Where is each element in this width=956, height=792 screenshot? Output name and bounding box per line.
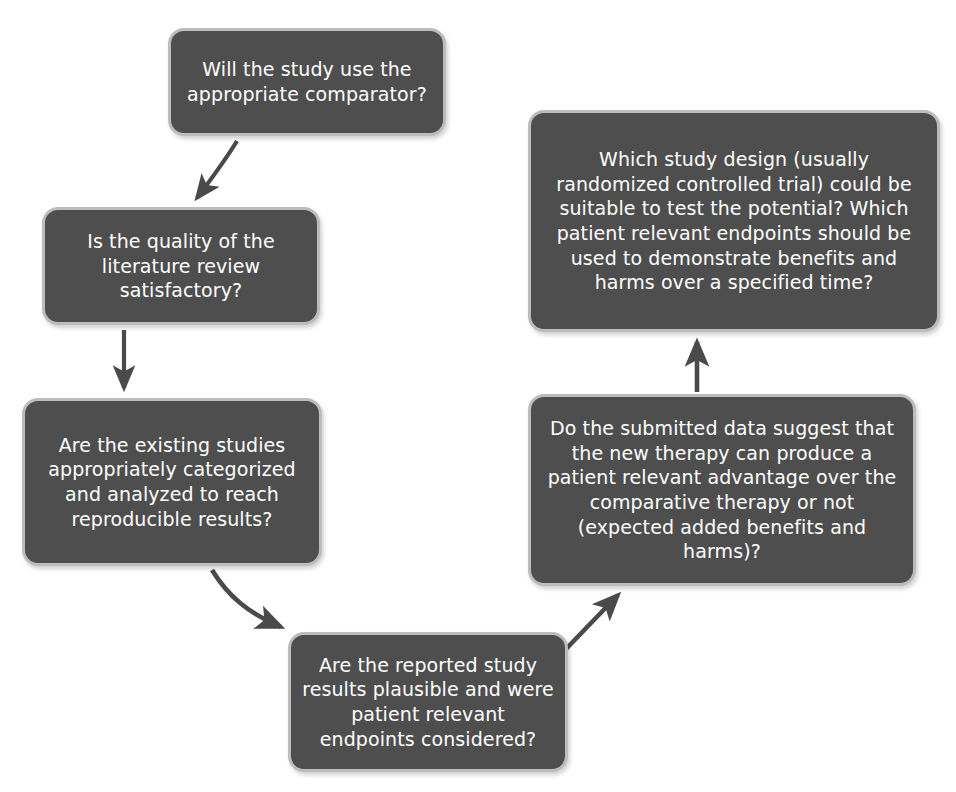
node-study-design-label: Which study design (usually randomized c…: [531, 143, 937, 299]
arrow-existing-to-reported: [212, 570, 281, 627]
arrow-reported-to-submitted: [565, 595, 618, 650]
node-comparator-label: Will the study use the appropriate compa…: [171, 53, 443, 110]
arrow-comparator-to-literature: [197, 141, 237, 198]
node-comparator[interactable]: Will the study use the appropriate compa…: [168, 28, 446, 136]
node-submitted-data[interactable]: Do the submitted data suggest that the n…: [528, 394, 916, 586]
node-submitted-data-label: Do the submitted data suggest that the n…: [531, 412, 913, 568]
node-existing-studies-label: Are the existing studies appropriately c…: [25, 429, 319, 536]
flowchart-canvas: Will the study use the appropriate compa…: [0, 0, 956, 792]
node-literature-review[interactable]: Is the quality of the literature review …: [42, 207, 320, 325]
node-reported-results[interactable]: Are the reported study results plausible…: [288, 632, 568, 772]
node-existing-studies[interactable]: Are the existing studies appropriately c…: [22, 398, 322, 566]
node-reported-results-label: Are the reported study results plausible…: [291, 649, 565, 756]
node-study-design[interactable]: Which study design (usually randomized c…: [528, 110, 940, 332]
node-literature-review-label: Is the quality of the literature review …: [45, 225, 317, 307]
